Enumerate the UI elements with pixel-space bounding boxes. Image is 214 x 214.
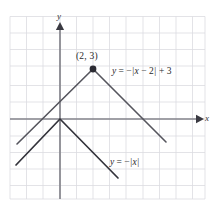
y-axis-label: y — [57, 12, 61, 21]
vertex-point-marker — [90, 66, 97, 73]
equation-label-shifted: y = −|x − 2| + 3 — [112, 67, 171, 77]
graph-figure: (2, 3) y = −|x − 2| + 3 y = −|x| y x — [0, 0, 214, 214]
x-axis-arrowhead — [196, 115, 204, 123]
equation-label-basic: y = −|x| — [110, 158, 140, 168]
coordinate-plane — [0, 0, 214, 214]
y-axis-arrowhead — [56, 22, 64, 30]
grid-lines — [10, 17, 205, 200]
curve-absolute-shifted — [17, 69, 166, 144]
axis-lines — [10, 26, 196, 199]
x-axis-label: x — [205, 114, 209, 123]
vertex-point-label: (2, 3) — [76, 52, 98, 62]
